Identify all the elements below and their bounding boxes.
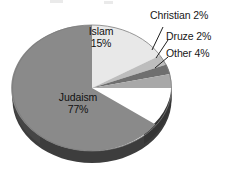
leader-line-christian — [152, 27, 163, 50]
cropped-title-artifact-left — [50, 0, 63, 3]
pie-label-druze: Druze 2% — [166, 31, 211, 43]
pie-label-judaism-name: Judaism — [59, 91, 97, 103]
cropped-title-artifact-right — [104, 1, 113, 4]
pie-label-islam: Islam 15% — [74, 26, 128, 50]
pie-label-judaism: Judaism 77% — [26, 92, 130, 116]
pie-chart: Judaism 77% Islam 15% Christian 2% Druze… — [0, 0, 240, 179]
pie-label-other: Other 4% — [166, 48, 210, 60]
pie-label-judaism-value: 77% — [26, 104, 130, 116]
pie-label-islam-value: 15% — [74, 38, 128, 50]
pie-label-christian: Christian 2% — [150, 10, 208, 22]
pie-label-islam-name: Islam — [89, 25, 114, 37]
